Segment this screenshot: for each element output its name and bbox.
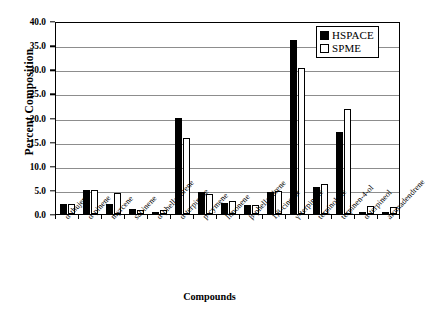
legend-item-hspace: HSPACE: [320, 29, 374, 42]
bar-group: [60, 23, 75, 214]
legend-swatch-spme: [320, 44, 329, 53]
y-axis-ticks: 0.05.010.015.020.025.030.035.040.0: [0, 22, 55, 215]
y-axis-tick-label: 35.0: [30, 41, 46, 51]
y-axis-tick-label: 15.0: [30, 138, 46, 148]
y-axis-tick-label: 20.0: [30, 114, 46, 124]
bar-group: [244, 23, 259, 214]
y-axis-tick-label: 30.0: [30, 65, 46, 75]
bar-group: [106, 23, 121, 214]
y-axis-tick-label: 40.0: [30, 17, 46, 27]
y-axis-tick-label: 10.0: [30, 162, 46, 172]
bar-group: [198, 23, 213, 214]
bar-group: [290, 23, 305, 214]
bar-group: [152, 23, 167, 214]
y-axis-tick-label: 25.0: [30, 89, 46, 99]
legend-swatch-hspace: [320, 31, 329, 40]
x-axis-category-labels: α-thujeneα-pinenemyrcenesabineneα-phella…: [0, 215, 419, 290]
y-axis-tick-label: 5.0: [34, 186, 46, 196]
legend-label-hspace: HSPACE: [332, 30, 374, 41]
x-axis-title: Compounds: [0, 291, 419, 302]
bar-spme: [344, 109, 351, 214]
bar-group: [129, 23, 144, 214]
chart-legend: HSPACE SPME: [316, 26, 379, 58]
bar-group: [83, 23, 98, 214]
bar-group: [221, 23, 236, 214]
legend-item-spme: SPME: [320, 42, 374, 55]
legend-label-spme: SPME: [332, 43, 361, 54]
bar-group: [382, 23, 397, 214]
